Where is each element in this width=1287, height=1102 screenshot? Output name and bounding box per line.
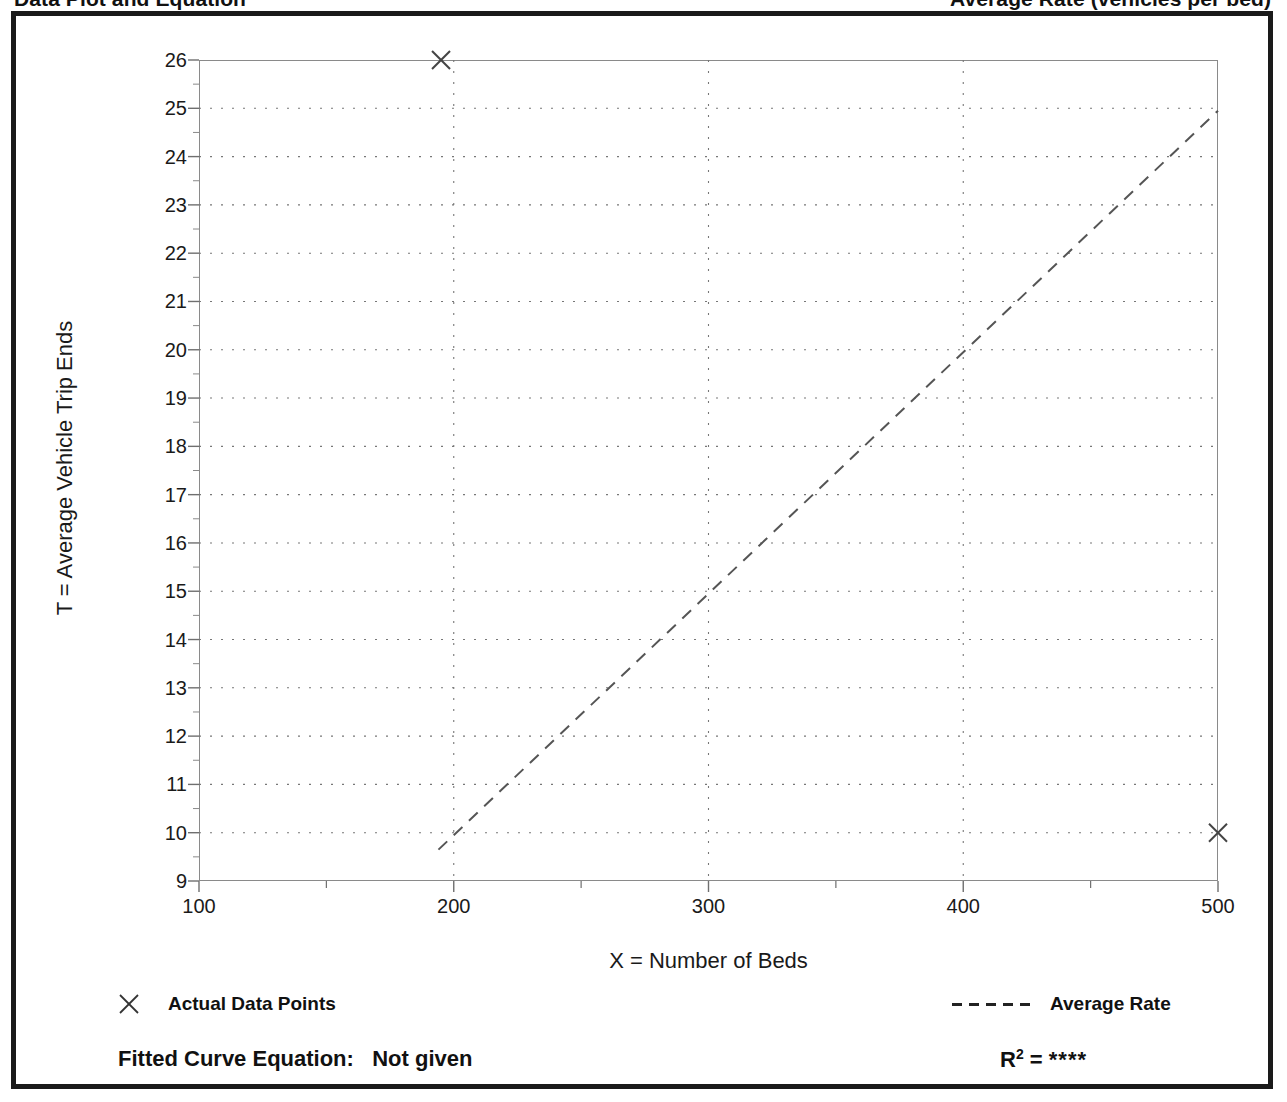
r-squared-symbol: R <box>1000 1047 1016 1072</box>
y-tick-label: 22 <box>141 242 187 265</box>
y-tick-label: 25 <box>141 97 187 120</box>
y-axis-title: T = Average Vehicle Trip Ends <box>52 188 78 748</box>
y-tick-label: 20 <box>141 338 187 361</box>
x-tick-label: 400 <box>947 895 980 918</box>
x-ticks <box>199 881 1218 892</box>
r-squared-exponent: 2 <box>1016 1046 1024 1062</box>
x-axis-title: X = Number of Beds <box>199 948 1218 974</box>
legend-item-actual-data-points: Actual Data Points <box>118 993 336 1015</box>
y-tick-label: 23 <box>141 193 187 216</box>
chart-legend: Actual Data Points Average Rate <box>0 993 1287 1027</box>
y-tick-label: 17 <box>141 483 187 506</box>
fitted-curve-equation: Fitted Curve Equation: Not given <box>118 1046 472 1072</box>
x-tick-label: 300 <box>692 895 725 918</box>
y-tick-label: 13 <box>141 676 187 699</box>
y-tick-label: 12 <box>141 725 187 748</box>
chart-page: Data Plot and Equation Average Rate (veh… <box>0 0 1287 1102</box>
horizontal-gridlines <box>199 108 1218 832</box>
x-marker-icon <box>118 993 140 1015</box>
y-tick-label: 10 <box>141 821 187 844</box>
y-tick-label: 9 <box>141 870 187 893</box>
r-squared-value: **** <box>1049 1047 1087 1072</box>
y-minor-ticks <box>193 84 199 857</box>
y-axis-tick-labels: 91011121314151617181920212223242526 <box>135 0 187 1102</box>
r-squared-equals: = <box>1030 1047 1043 1072</box>
y-tick-label: 19 <box>141 387 187 410</box>
legend-label-actual-data-points: Actual Data Points <box>168 993 336 1015</box>
y-tick-label: 26 <box>141 49 187 72</box>
dashed-line-icon <box>952 1003 1030 1006</box>
plot-graphics <box>199 60 1218 881</box>
y-tick-label: 16 <box>141 531 187 554</box>
y-tick-label: 14 <box>141 628 187 651</box>
y-tick-label: 15 <box>141 580 187 603</box>
chart-canvas: 91011121314151617181920212223242526 1002… <box>0 0 1287 1102</box>
fitted-curve-equation-value: Not given <box>372 1046 472 1071</box>
x-tick-label: 100 <box>182 895 215 918</box>
y-tick-label: 21 <box>141 290 187 313</box>
fitted-curve-equation-label: Fitted Curve Equation: <box>118 1046 354 1071</box>
vertical-gridlines <box>454 60 964 881</box>
legend-item-average-rate: Average Rate <box>952 993 1171 1015</box>
r-squared: R2 = **** <box>1000 1046 1087 1073</box>
chart-footer: Fitted Curve Equation: Not given R2 = **… <box>0 1046 1287 1086</box>
y-tick-label: 24 <box>141 145 187 168</box>
average-rate-line <box>438 111 1218 850</box>
legend-label-average-rate: Average Rate <box>1050 993 1171 1015</box>
y-tick-label: 11 <box>141 773 187 796</box>
x-axis-tick-labels: 100200300400500 <box>0 895 1287 929</box>
x-tick-label: 200 <box>437 895 470 918</box>
y-tick-label: 18 <box>141 435 187 458</box>
x-tick-label: 500 <box>1201 895 1234 918</box>
